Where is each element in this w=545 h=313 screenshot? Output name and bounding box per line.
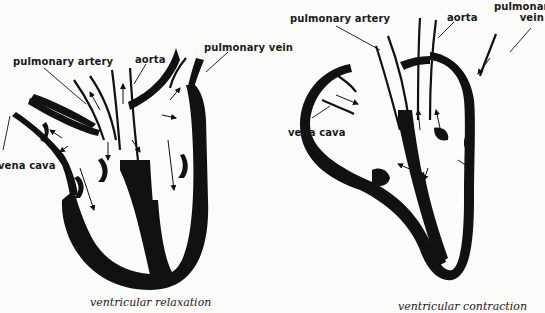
caption-ventricular-contraction: ventricular contraction [398, 300, 527, 313]
label-pulmonary-vein-line2: vein [494, 12, 544, 23]
label-vena-cava-contraction: vena cava [288, 127, 346, 138]
label-pulmonary-artery-relaxation: pulmonary artery [13, 56, 113, 67]
label-aorta-relaxation: aorta [135, 54, 166, 65]
label-pulmonary-artery-contraction: pulmonary artery [290, 13, 390, 24]
label-pulmonary-vein-contraction: pulmonary vein [494, 1, 544, 23]
label-pulmonary-vein-line1: pulmonary [494, 1, 544, 12]
label-vena-cava-relaxation: vena cava [0, 160, 56, 171]
label-pulmonary-vein-relaxation: pulmonary vein [204, 42, 293, 53]
label-aorta-contraction: aorta [447, 12, 478, 23]
caption-ventricular-relaxation: ventricular relaxation [90, 296, 211, 309]
heart-cycle-diagram: pulmonary artery aorta pulmonary vein ve… [0, 0, 545, 313]
